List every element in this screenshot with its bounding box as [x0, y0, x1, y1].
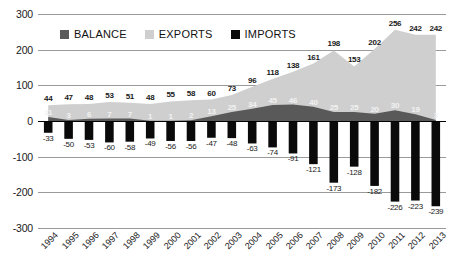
balance-value-label: 19 — [411, 105, 419, 114]
imports-value-label: -226 — [388, 203, 403, 212]
imports-bar — [146, 121, 155, 138]
balance-value-label: 11 — [44, 108, 52, 117]
balance-value-label: 45 — [268, 96, 276, 105]
imports-bar — [330, 121, 339, 183]
imports-bar — [248, 121, 257, 143]
balance-value-label: 3 — [67, 111, 71, 120]
imports-bar — [391, 121, 400, 202]
imports-value-label: -49 — [145, 139, 156, 148]
imports-bar — [289, 121, 298, 153]
exports-value-label: 242 — [430, 24, 442, 33]
imports-bar — [105, 121, 114, 142]
imports-bar — [228, 121, 237, 138]
imports-value-label: -74 — [267, 148, 278, 157]
imports-value-label: -223 — [408, 202, 423, 211]
imports-bar — [370, 121, 379, 186]
plot-area: 3002001000-100-200-300444748535148555860… — [38, 14, 446, 228]
x-axis-tick-label: 2011 — [386, 230, 407, 251]
y-axis-tick-label: -200 — [13, 186, 33, 198]
x-axis-tick-label: 1997 — [100, 230, 121, 251]
chart-container: BALANCE EXPORTS IMPORTS 3002001000-100-2… — [0, 0, 455, 270]
imports-bar — [126, 121, 135, 142]
balance-value-label: 25 — [330, 103, 338, 112]
x-axis-tick-label: 2003 — [223, 230, 244, 251]
x-axis-tick-label: 2002 — [202, 230, 223, 251]
exports-value-label: 47 — [64, 93, 72, 102]
imports-value-label: -173 — [326, 184, 341, 193]
imports-bar — [166, 121, 175, 141]
x-axis-tick-label: 2004 — [243, 230, 264, 251]
exports-value-label: 153 — [348, 55, 360, 64]
exports-value-label: 60 — [207, 89, 215, 98]
exports-value-label: 138 — [287, 61, 299, 70]
imports-value-label: -91 — [288, 154, 299, 163]
y-axis-tick-label: 0 — [27, 115, 33, 127]
imports-bar — [187, 121, 196, 141]
y-axis-tick-label: 100 — [16, 79, 33, 91]
exports-value-label: 161 — [307, 53, 319, 62]
balance-value-label: 34 — [248, 100, 256, 109]
imports-bar — [309, 121, 318, 164]
gridline — [38, 228, 446, 229]
imports-value-label: -53 — [84, 141, 95, 150]
imports-bar — [207, 121, 216, 138]
y-axis-tick-label: -300 — [13, 222, 33, 234]
x-axis-tick-label: 2012 — [406, 230, 427, 251]
balance-value-label: 1 — [169, 112, 173, 121]
imports-value-label: -239 — [428, 207, 443, 216]
balance-value-label: 25 — [228, 103, 236, 112]
x-axis-tick-label: 1996 — [80, 230, 101, 251]
zero-axis-line — [38, 121, 446, 122]
imports-value-label: -56 — [165, 142, 176, 151]
x-axis-tick-label: 2001 — [182, 230, 203, 251]
imports-bar — [64, 121, 73, 139]
balance-value-label: 40 — [309, 98, 317, 107]
imports-value-label: -48 — [226, 139, 237, 148]
imports-bar — [44, 121, 53, 133]
imports-bar — [85, 121, 94, 140]
balance-value-label: 2 — [189, 111, 193, 120]
x-axis-tick-label: 2009 — [345, 230, 366, 251]
exports-value-label: 118 — [267, 68, 279, 77]
x-axis-tick-label: 2010 — [365, 230, 386, 251]
x-axis-labels: 1994199519961997199819992000200120022003… — [38, 230, 446, 270]
exports-value-label: 73 — [228, 84, 236, 93]
exports-value-label: 198 — [328, 39, 340, 48]
balance-value-label: 46 — [289, 96, 297, 105]
imports-value-label: -50 — [63, 140, 74, 149]
x-axis-tick-label: 1995 — [59, 230, 80, 251]
imports-value-label: -47 — [206, 139, 217, 148]
x-axis-tick-label: 2007 — [304, 230, 325, 251]
balance-value-label: 7 — [128, 110, 132, 119]
imports-bar — [268, 121, 277, 147]
x-axis-tick-label: 1998 — [121, 230, 142, 251]
exports-value-label: 48 — [146, 93, 154, 102]
balance-value-label: 13 — [207, 107, 215, 116]
imports-value-label: -33 — [43, 134, 54, 143]
y-axis-tick-label: -100 — [13, 151, 33, 163]
exports-value-label: 53 — [105, 91, 113, 100]
imports-bar — [350, 121, 359, 167]
imports-value-label: -60 — [104, 143, 115, 152]
imports-bar — [432, 121, 441, 206]
imports-value-label: -63 — [247, 144, 258, 153]
exports-value-label: 58 — [187, 89, 195, 98]
imports-value-label: -182 — [367, 187, 382, 196]
x-axis-tick-label: 1994 — [39, 230, 60, 251]
imports-value-label: -121 — [306, 165, 321, 174]
imports-value-label: -58 — [124, 143, 135, 152]
exports-value-label: 242 — [409, 24, 421, 33]
x-axis-tick-label: 2006 — [284, 230, 305, 251]
imports-value-label: -128 — [347, 168, 362, 177]
exports-value-label: 202 — [368, 38, 380, 47]
x-axis-tick-label: 1999 — [141, 230, 162, 251]
y-axis-tick-label: 300 — [16, 8, 33, 20]
balance-value-label: 30 — [391, 101, 399, 110]
x-axis-tick-label: 2005 — [263, 230, 284, 251]
exports-value-label: 55 — [166, 90, 174, 99]
exports-value-label: 51 — [126, 92, 134, 101]
imports-bar — [411, 121, 420, 201]
exports-value-label: 48 — [85, 93, 93, 102]
y-axis-tick-label: 200 — [16, 44, 33, 56]
x-axis-tick-label: 2013 — [427, 230, 448, 251]
